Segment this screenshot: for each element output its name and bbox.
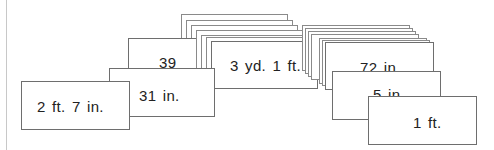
card-1-ft[interactable]: 1 ft. xyxy=(368,96,477,145)
card-label: 3 yd. 1 ft. xyxy=(230,57,301,74)
card-label: 2 ft. 7 in. xyxy=(37,98,104,115)
card-label: 1 ft. xyxy=(413,114,442,131)
card-label: 31 in. xyxy=(139,87,180,104)
card-2ft-7in[interactable]: 2 ft. 7 in. xyxy=(21,81,130,130)
margin-rule xyxy=(6,0,7,150)
